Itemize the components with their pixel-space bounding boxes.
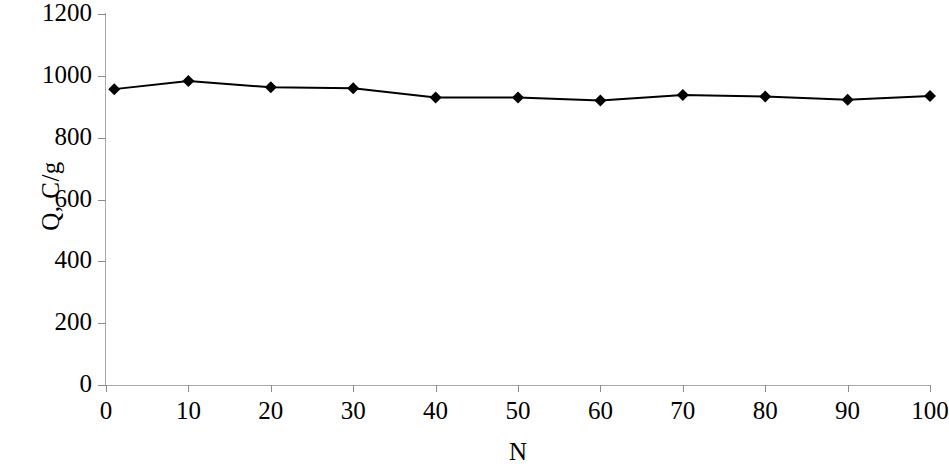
data-point-marker (265, 81, 277, 93)
x-tick-label: 30 (313, 398, 393, 423)
y-tick-label: 1000 (0, 62, 92, 87)
x-tick-mark (930, 385, 931, 392)
x-tick-label: 20 (231, 398, 311, 423)
y-tick-mark (98, 261, 106, 262)
x-tick-label: 50 (478, 398, 558, 423)
x-tick-label: 100 (890, 398, 949, 423)
x-tick-label: 70 (643, 398, 723, 423)
y-tick-mark (98, 385, 106, 386)
x-tick-mark (518, 385, 519, 392)
y-tick-label: 1200 (0, 0, 92, 25)
data-point-marker (924, 90, 936, 102)
data-point-marker (677, 89, 689, 101)
x-tick-label: 60 (560, 398, 640, 423)
data-point-marker (108, 83, 120, 95)
data-point-marker (594, 95, 606, 107)
y-tick-label: 0 (0, 371, 92, 396)
data-point-marker (430, 91, 442, 103)
x-tick-mark (436, 385, 437, 392)
x-tick-mark (353, 385, 354, 392)
y-tick-label: 600 (0, 186, 92, 211)
y-tick-mark (98, 138, 106, 139)
y-tick-mark (98, 323, 106, 324)
x-tick-mark (271, 385, 272, 392)
y-tick-label: 200 (0, 309, 92, 334)
y-tick-mark (98, 14, 106, 15)
chart-figure: Q, C/g 020040060080010001200 01020304050… (0, 0, 949, 470)
x-tick-mark (848, 385, 849, 392)
x-tick-mark (600, 385, 601, 392)
x-tick-mark (683, 385, 684, 392)
x-tick-label: 40 (396, 398, 476, 423)
x-tick-label: 10 (148, 398, 228, 423)
data-point-marker (182, 75, 194, 87)
x-tick-label: 0 (66, 398, 146, 423)
x-tick-mark (765, 385, 766, 392)
y-tick-label: 800 (0, 124, 92, 149)
x-tick-label: 90 (808, 398, 888, 423)
data-point-marker (759, 91, 771, 103)
y-tick-mark (98, 200, 106, 201)
y-tick-label: 400 (0, 247, 92, 272)
series-line (114, 81, 930, 100)
data-point-marker (512, 91, 524, 103)
y-tick-mark (98, 76, 106, 77)
x-tick-mark (106, 385, 107, 392)
data-point-marker (842, 94, 854, 106)
x-axis-title: N (106, 438, 930, 466)
x-tick-label: 80 (725, 398, 805, 423)
x-tick-mark (188, 385, 189, 392)
data-point-marker (347, 82, 359, 94)
